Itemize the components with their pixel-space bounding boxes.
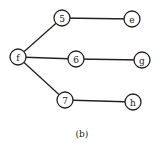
node-5: 5 xyxy=(54,10,70,26)
node-label: 5 xyxy=(59,14,65,24)
node-h: h xyxy=(125,94,141,110)
node-label: 7 xyxy=(62,96,68,106)
edge-5-e xyxy=(62,18,132,19)
edge-f-7 xyxy=(18,57,65,100)
node-6: 6 xyxy=(68,51,84,67)
node-f: f xyxy=(10,49,26,65)
edge-6-g xyxy=(76,59,142,60)
edge-7-h xyxy=(65,100,133,102)
tree-diagram: f567egh (b) xyxy=(0,0,156,143)
node-label: h xyxy=(130,98,136,108)
edge-f-6 xyxy=(18,57,76,59)
figure-caption: (b) xyxy=(76,129,89,139)
edge-f-5 xyxy=(18,18,62,57)
node-7: 7 xyxy=(57,92,73,108)
node-label: g xyxy=(139,56,145,66)
node-e: e xyxy=(124,11,140,27)
node-g: g xyxy=(134,52,150,68)
node-label: 6 xyxy=(73,55,79,65)
node-label: e xyxy=(129,15,134,25)
